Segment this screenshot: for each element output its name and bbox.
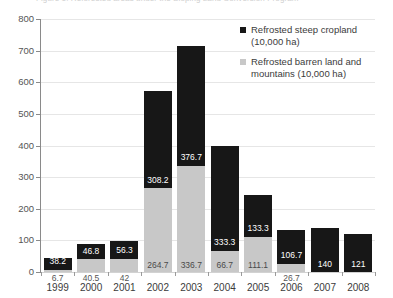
bar-value-label-cropland-2007: 140 bbox=[311, 260, 339, 269]
y-tick-mark-400 bbox=[36, 146, 41, 147]
y-tick-mark-600 bbox=[36, 82, 41, 83]
bar-value-label-cropland-2004: 333.3 bbox=[211, 238, 239, 247]
bar-segment-cropland-2007[interactable]: 140 bbox=[311, 228, 339, 272]
bar-segment-cropland-2005[interactable]: 133.3 bbox=[244, 195, 272, 237]
y-tick-label-200: 200 bbox=[2, 204, 34, 214]
bar-segment-cropland-2000[interactable]: 46.8 bbox=[77, 244, 105, 259]
chart-container: Figure 1. Reforested areas under the Slo… bbox=[0, 0, 393, 298]
bar-segment-barren-2004[interactable]: 66.7 bbox=[211, 251, 239, 272]
y-tick-label-100: 100 bbox=[2, 235, 34, 245]
bar-segment-barren-2005[interactable]: 111.1 bbox=[244, 237, 272, 272]
legend-label-1: Refrosted barren land and mountains (10,… bbox=[251, 56, 390, 79]
y-tick-mark-0 bbox=[36, 272, 41, 273]
x-axis-label-2005: 2005 bbox=[241, 283, 274, 293]
gridline-800 bbox=[41, 19, 375, 20]
bar-value-label-cropland-1999: 38.2 bbox=[44, 257, 72, 266]
bar-segment-barren-2002[interactable]: 264.7 bbox=[144, 188, 172, 272]
bar-value-label-barren-2003: 336.7 bbox=[177, 261, 205, 270]
gridline-300 bbox=[41, 177, 375, 178]
x-tick-mark-7 bbox=[275, 272, 276, 276]
x-axis-label-1999: 1999 bbox=[41, 283, 74, 293]
y-tick-mark-200 bbox=[36, 209, 41, 210]
x-tick-mark-8 bbox=[308, 272, 309, 276]
bar-value-label-cropland-2000: 46.8 bbox=[77, 247, 105, 256]
x-tick-mark-9 bbox=[342, 272, 343, 276]
x-axis-ticks bbox=[41, 272, 375, 277]
bar-value-label-barren-2002: 264.7 bbox=[144, 261, 172, 270]
x-axis-label-2001: 2001 bbox=[108, 283, 141, 293]
gridline-200 bbox=[41, 209, 375, 210]
x-tick-mark-0 bbox=[41, 272, 42, 276]
bar-segment-cropland-2003[interactable]: 376.7 bbox=[177, 46, 205, 165]
x-axis-label-2003: 2003 bbox=[175, 283, 208, 293]
x-axis-label-2004: 2004 bbox=[208, 283, 241, 293]
x-axis-label-2006: 2006 bbox=[275, 283, 308, 293]
bar-segment-barren-2001[interactable]: 42 bbox=[110, 259, 138, 272]
chart-title: Figure 1. Reforested areas under the Slo… bbox=[36, 0, 299, 3]
bar-value-label-cropland-2006: 106.7 bbox=[277, 251, 305, 260]
y-tick-label-700: 700 bbox=[2, 46, 34, 56]
x-tick-mark-1 bbox=[74, 272, 75, 276]
x-tick-mark-4 bbox=[175, 272, 176, 276]
bar-segment-cropland-1999[interactable]: 38.2 bbox=[44, 258, 72, 270]
bar-value-label-cropland-2001: 56.3 bbox=[110, 246, 138, 255]
bar-segment-cropland-2006[interactable]: 106.7 bbox=[277, 230, 305, 264]
bar-segment-cropland-2002[interactable]: 308.2 bbox=[144, 91, 172, 188]
bar-segment-barren-2000[interactable]: 40.5 bbox=[77, 259, 105, 272]
black-square-icon bbox=[240, 27, 246, 33]
x-tick-mark-6 bbox=[241, 272, 242, 276]
x-tick-mark-5 bbox=[208, 272, 209, 276]
bar-value-label-cropland-2005: 133.3 bbox=[244, 224, 272, 233]
y-tick-label-400: 400 bbox=[2, 141, 34, 151]
x-tick-mark-3 bbox=[141, 272, 142, 276]
x-tick-mark-2 bbox=[108, 272, 109, 276]
legend-entry-0[interactable]: Refrosted steep cropland (10,000 ha) bbox=[240, 24, 390, 47]
bar-value-label-barren-2005: 111.1 bbox=[244, 261, 272, 270]
x-axis-labels: 1999200020012002200320042005200620072008 bbox=[41, 283, 375, 297]
y-tick-mark-300 bbox=[36, 177, 41, 178]
chart-legend: Refrosted steep cropland (10,000 ha)Refr… bbox=[240, 24, 390, 88]
y-tick-mark-800 bbox=[36, 19, 41, 20]
bar-value-label-cropland-2008: 121 bbox=[344, 260, 372, 269]
y-tick-label-800: 800 bbox=[2, 14, 34, 24]
x-tick-mark-10 bbox=[375, 272, 376, 276]
x-axis-label-2000: 2000 bbox=[74, 283, 107, 293]
y-tick-label-600: 600 bbox=[2, 77, 34, 87]
y-tick-label-0: 0 bbox=[2, 267, 34, 277]
y-tick-mark-700 bbox=[36, 51, 41, 52]
bar-value-label-cropland-2002: 308.2 bbox=[144, 176, 172, 185]
bar-value-label-cropland-2003: 376.7 bbox=[177, 153, 205, 162]
bar-segment-cropland-2001[interactable]: 56.3 bbox=[110, 241, 138, 259]
y-tick-mark-100 bbox=[36, 240, 41, 241]
x-axis-label-2007: 2007 bbox=[308, 283, 341, 293]
legend-label-0: Refrosted steep cropland (10,000 ha) bbox=[251, 24, 390, 47]
gridline-500 bbox=[41, 114, 375, 115]
gray-square-icon bbox=[240, 59, 246, 65]
bar-segment-barren-2003[interactable]: 336.7 bbox=[177, 166, 205, 272]
y-tick-label-300: 300 bbox=[2, 172, 34, 182]
legend-entry-1[interactable]: Refrosted barren land and mountains (10,… bbox=[240, 56, 390, 79]
x-axis-label-2002: 2002 bbox=[141, 283, 174, 293]
y-axis-labels: 0100200300400500600700800 bbox=[0, 0, 34, 298]
bar-segment-cropland-2004[interactable]: 333.3 bbox=[211, 146, 239, 251]
chart-title-strip: Figure 1. Reforested areas under the Slo… bbox=[0, 0, 393, 7]
bar-segment-cropland-2008[interactable]: 121 bbox=[344, 234, 372, 272]
y-tick-label-500: 500 bbox=[2, 109, 34, 119]
y-tick-mark-500 bbox=[36, 114, 41, 115]
gridline-400 bbox=[41, 146, 375, 147]
bar-value-label-barren-2004: 66.7 bbox=[211, 261, 239, 270]
x-axis-label-2008: 2008 bbox=[342, 283, 375, 293]
bar-segment-barren-2006[interactable]: 26.7 bbox=[277, 264, 305, 272]
